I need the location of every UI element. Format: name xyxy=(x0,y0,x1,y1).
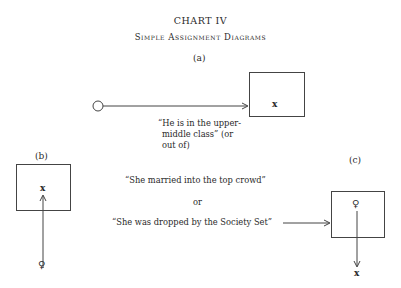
panel-a-label: (a) xyxy=(193,53,205,63)
panel-a-caption: “He is in the upper- middle class” (or o… xyxy=(158,118,241,151)
center-text-line-1: “She married into the top crowd” xyxy=(125,175,266,186)
panel-a-caption-line-3: out of) xyxy=(158,140,241,151)
center-text-line-2: “She was dropped by the Society Set” xyxy=(112,217,272,228)
panel-b-box-mark: x xyxy=(40,183,45,193)
panel-b-label: (b) xyxy=(35,151,48,161)
panel-c-label: (c) xyxy=(349,155,361,165)
panel-c-exit-mark: x xyxy=(354,268,359,278)
female-symbol-icon: ♀ xyxy=(38,260,45,270)
panel-a-caption-line-2: middle class” (or xyxy=(158,129,241,140)
panel-a-caption-line-1: “He is in the upper- xyxy=(158,118,241,129)
origin-circle-icon xyxy=(93,101,103,111)
panel-a-box-mark: x xyxy=(272,99,277,109)
panel-a-box xyxy=(249,72,305,117)
panel-c-female-symbol-icon: ♀ xyxy=(352,199,359,209)
center-text-or: or xyxy=(193,197,202,208)
